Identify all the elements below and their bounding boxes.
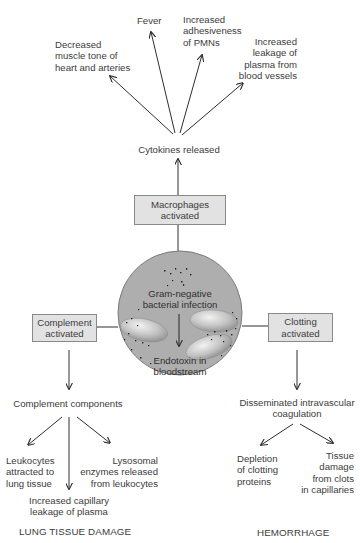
effect-tissue-damage-clots: Tissue damage from clots in capillaries: [296, 450, 354, 496]
sepsis-pathway-diagram: Decreased muscle tone of heart and arter…: [0, 0, 360, 543]
effect-decreased-muscle-tone: Decreased muscle tone of heart and arter…: [55, 39, 130, 73]
clotting-activated-box: Clotting activated: [268, 313, 333, 342]
gram-negative-infection-label: Gram-negative bacterial infection: [130, 288, 230, 311]
effect-plasma-leakage: Increased leakage of plasma from blood v…: [236, 36, 297, 82]
effect-fever: Fever: [137, 15, 162, 26]
complement-activated-box: Complement activated: [32, 314, 97, 342]
effect-leukocytes-attracted: Leukocytes attracted to lung tissue: [6, 455, 55, 489]
endotoxin-label: Endotoxin in bloodstream: [143, 355, 217, 378]
effect-capillary-leakage: Increased capillary leakage of plasma: [26, 495, 112, 518]
lung-tissue-damage-outcome: LUNG TISSUE DAMAGE: [19, 526, 131, 537]
cytokines-released-label: Cytokines released: [120, 144, 238, 155]
complement-components-label: Complement components: [8, 398, 128, 409]
effect-depletion-clotting-proteins: Depletion of clotting proteins: [237, 453, 278, 487]
hemorrhage-outcome: HEMORRHAGE: [257, 527, 329, 538]
effect-increased-adhesiveness: Increased adhesiveness of PMNs: [183, 14, 242, 48]
effect-lysosomal-enzymes: Lysosomal enzymes released from leukocyt…: [76, 455, 158, 489]
dic-label: Disseminated intravascular coagulation: [238, 397, 356, 420]
macrophages-activated-box: Macrophages activated: [134, 195, 226, 225]
